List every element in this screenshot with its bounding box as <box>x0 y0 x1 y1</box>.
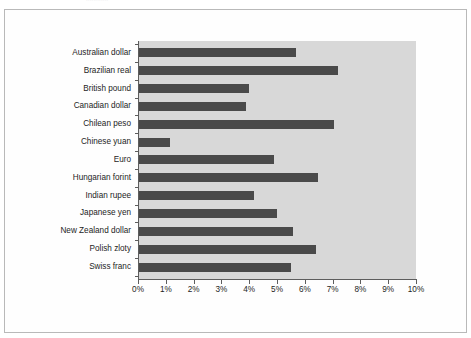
y-axis-label: Indian rupee <box>11 187 135 205</box>
bar <box>139 66 338 75</box>
y-axis-label: Canadian dollar <box>11 98 135 116</box>
bar-row <box>139 222 417 240</box>
x-axis-tick <box>138 280 139 284</box>
bar-row <box>139 240 417 258</box>
bar-row <box>139 151 417 169</box>
bar-row <box>139 115 417 133</box>
bar <box>139 263 291 272</box>
y-axis-label: Chilean peso <box>11 115 135 133</box>
y-axis-label: Hungarian forint <box>11 169 135 187</box>
y-axis-label: Swiss franc <box>11 258 135 276</box>
x-axis-tick-label: 8% <box>354 286 366 294</box>
x-axis-tick <box>194 280 195 284</box>
x-axis-tick-label: 3% <box>215 286 227 294</box>
clipped-header-text: ............ <box>86 0 108 2</box>
bar <box>139 173 318 182</box>
clipped-header-strip: ............ <box>0 0 471 9</box>
bar-row <box>139 187 417 205</box>
x-axis-tick <box>277 280 278 284</box>
x-axis-tick-label: 4% <box>243 286 255 294</box>
x-axis-tick-labels: 0%1%2%3%4%5%6%7%8%9%10% <box>138 286 417 298</box>
bar-row <box>139 98 417 116</box>
x-axis-tick-label: 5% <box>271 286 283 294</box>
x-axis-tick <box>388 280 389 284</box>
bar <box>139 120 334 129</box>
x-axis-tick <box>221 280 222 284</box>
x-axis-tick <box>416 280 417 284</box>
x-axis-tick-label: 1% <box>160 286 172 294</box>
x-axis-tick <box>360 280 361 284</box>
bar-row <box>139 80 417 98</box>
bar <box>139 102 246 111</box>
y-axis-label: New Zealand dollar <box>11 222 135 240</box>
bar-row <box>139 169 417 187</box>
bar <box>139 209 277 218</box>
y-axis-label: Australian dollar <box>11 44 135 62</box>
x-axis-tick <box>249 280 250 284</box>
x-axis-tick-label: 7% <box>327 286 339 294</box>
bar <box>139 155 274 164</box>
y-axis-label: Euro <box>11 151 135 169</box>
plot-panel <box>138 41 416 279</box>
bar-row <box>139 44 417 62</box>
bar-row <box>139 133 417 151</box>
figure-frame: Australian dollarBrazilian realBritish p… <box>4 9 467 333</box>
x-axis-tick-label: 9% <box>382 286 394 294</box>
bar <box>139 191 254 200</box>
x-axis-ticks <box>138 280 417 284</box>
y-axis-label: Japanese yen <box>11 205 135 223</box>
x-axis-tick-label: 10% <box>408 286 424 294</box>
x-axis-tick <box>305 280 306 284</box>
bar-series <box>139 44 417 276</box>
bar-row <box>139 205 417 223</box>
y-axis-label: Polish zloty <box>11 240 135 258</box>
y-axis-category-labels: Australian dollarBrazilian realBritish p… <box>11 44 135 276</box>
bar <box>139 48 296 57</box>
bar <box>139 245 316 254</box>
bar-row <box>139 258 417 276</box>
bar <box>139 84 249 93</box>
y-axis-label: British pound <box>11 80 135 98</box>
y-axis-label: Brazilian real <box>11 62 135 80</box>
bar-row <box>139 62 417 80</box>
bar <box>139 138 170 147</box>
bar-chart: Australian dollarBrazilian realBritish p… <box>5 10 466 332</box>
y-axis-label: Chinese yuan <box>11 133 135 151</box>
x-axis-tick <box>166 280 167 284</box>
x-axis-tick-label: 6% <box>299 286 311 294</box>
x-axis-tick-label: 2% <box>188 286 200 294</box>
x-axis-tick-label: 0% <box>132 286 144 294</box>
bar <box>139 227 293 236</box>
x-axis-tick <box>333 280 334 284</box>
